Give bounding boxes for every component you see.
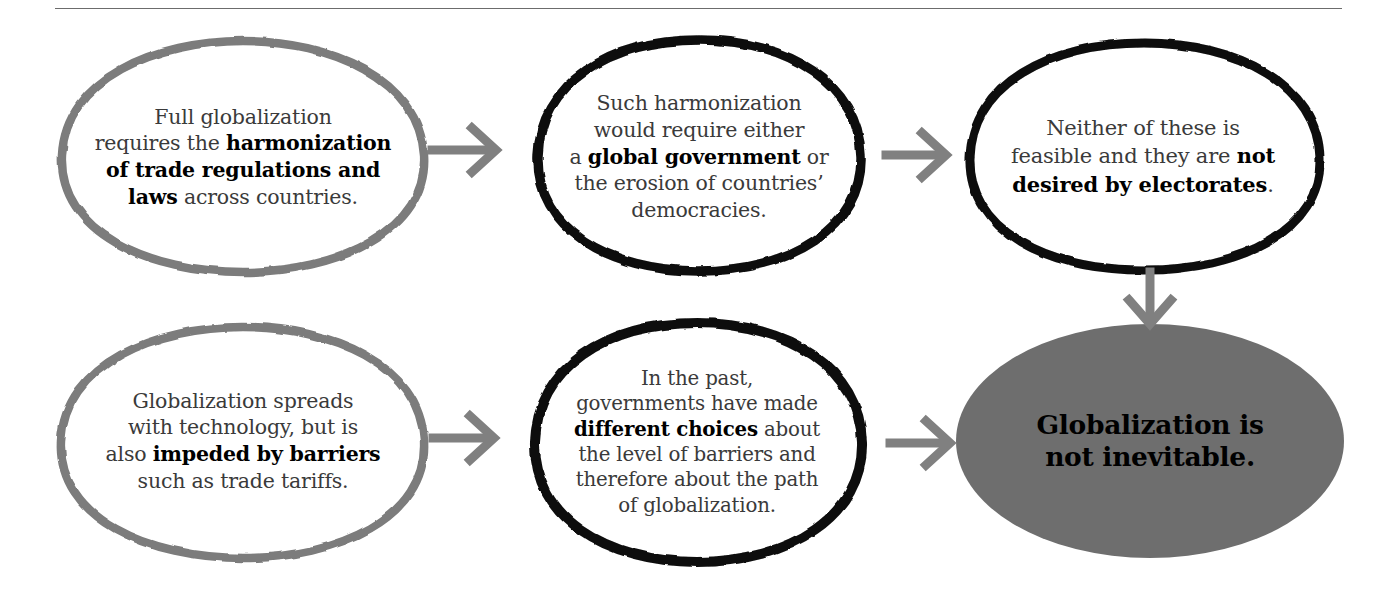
node-2[interactable]: Such harmonizationwould require eithera … [540, 52, 858, 262]
node-6[interactable]: Globalization isnot inevitable. [980, 336, 1320, 546]
node-2-text: Such harmonizationwould require eithera … [540, 90, 858, 223]
arrow-2-to-3 [886, 133, 946, 177]
arrow-3-to-6 [1129, 272, 1171, 324]
node-4[interactable]: Globalization spreadswith technology, bu… [78, 336, 408, 546]
arrow-4-to-5 [433, 416, 494, 460]
node-3[interactable]: Neither of these isfeasible and they are… [978, 52, 1308, 262]
node-4-text: Globalization spreadswith technology, bu… [78, 388, 408, 495]
node-5-text: In the past,governments have madediffere… [538, 366, 856, 518]
node-5[interactable]: In the past,governments have madediffere… [538, 330, 856, 554]
arrow-5-to-6 [890, 421, 950, 465]
diagram-canvas: Full globalizationrequires the harmoniza… [0, 0, 1396, 595]
node-3-text: Neither of these isfeasible and they are… [978, 115, 1308, 199]
node-1[interactable]: Full globalizationrequires the harmoniza… [78, 52, 408, 262]
page-title: Globalization is not inevitable — flow d… [0, 21, 1, 22]
arrow-1-to-2 [432, 128, 496, 172]
node-6-text: Globalization isnot inevitable. [980, 409, 1320, 474]
top-divider-rule [55, 8, 1342, 9]
node-1-text: Full globalizationrequires the harmoniza… [78, 104, 408, 211]
